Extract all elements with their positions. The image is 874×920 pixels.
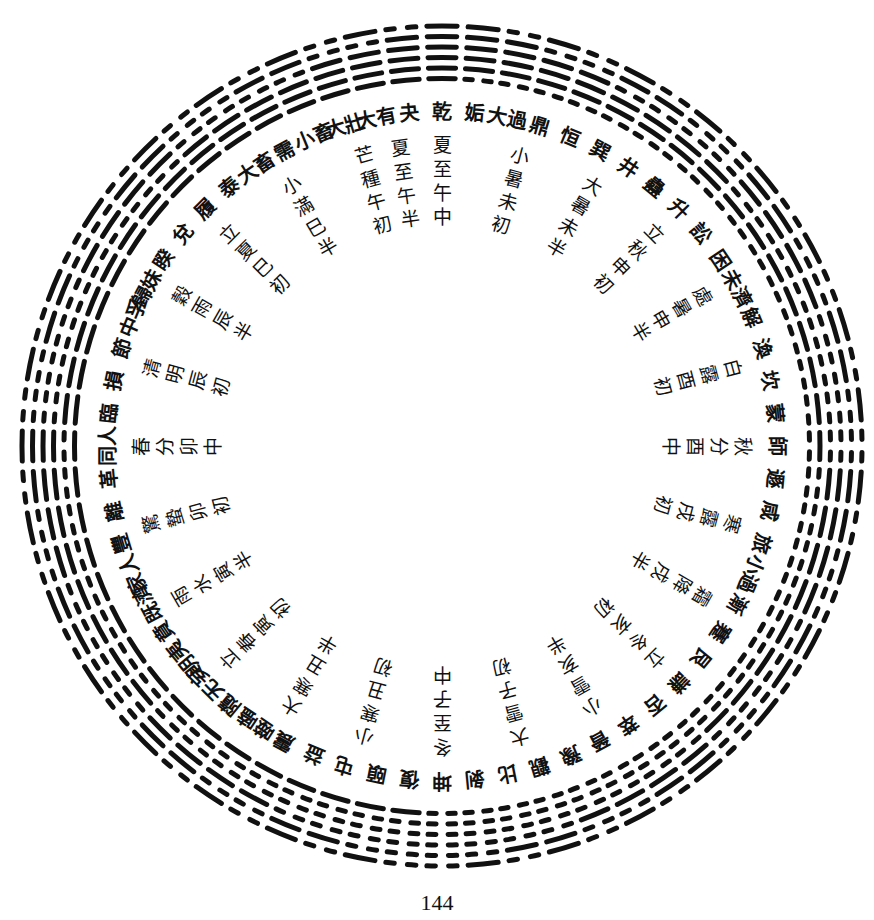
hexagram-line xyxy=(804,380,805,387)
hexagram-line xyxy=(641,800,648,804)
hexagram-line xyxy=(506,52,534,58)
solar-term-char: 戌 xyxy=(673,499,699,523)
hexagram-line xyxy=(823,295,826,303)
hexagram-label: 晉 xyxy=(585,726,614,757)
hexagram-line xyxy=(102,251,106,258)
hexagram-line xyxy=(76,604,79,611)
hexagram-line xyxy=(69,506,70,514)
hexagram-line xyxy=(66,339,68,347)
hexagram-line xyxy=(620,764,626,768)
hexagram-line xyxy=(757,219,762,225)
hexagram-line xyxy=(631,782,638,786)
solar-term-char: 芒 xyxy=(352,142,376,168)
solar-term-char: 辰 xyxy=(185,368,211,392)
hexagram-line xyxy=(663,761,669,766)
hexagram-line xyxy=(506,839,514,840)
hexagram-line xyxy=(797,621,801,628)
hexagram-line xyxy=(133,681,151,703)
hexagram-line xyxy=(778,251,782,258)
hexagram-line xyxy=(178,142,184,147)
hexagram-line xyxy=(795,345,797,352)
hexagram-line xyxy=(171,134,177,139)
hexagram-line xyxy=(530,35,538,37)
solar-term-char: 露 xyxy=(696,362,722,386)
hexagram-label: 姤 xyxy=(464,100,486,126)
hexagram-line xyxy=(52,571,55,579)
hexagram-line xyxy=(410,833,418,834)
hexagram-line xyxy=(276,809,283,812)
hexagram-line xyxy=(539,809,546,811)
hexagram-line xyxy=(806,488,807,495)
hexagram-line xyxy=(202,109,209,114)
solar-term-char: 驚 xyxy=(138,512,164,536)
hexagram-line xyxy=(795,582,806,608)
hexagram-line xyxy=(549,40,578,49)
hexagram-line xyxy=(700,142,706,147)
solar-term-char: 中 xyxy=(202,437,224,456)
hexagram-line xyxy=(316,70,343,78)
hexagram-line xyxy=(790,327,792,334)
hexagram-line xyxy=(185,737,191,742)
hexagram-line xyxy=(783,685,788,692)
hexagram-line xyxy=(800,523,802,530)
hexagram-line xyxy=(706,696,711,701)
solar-term-char: 午 xyxy=(364,189,388,215)
hexagram-line xyxy=(309,56,317,59)
hexagram-line xyxy=(133,204,138,210)
hexagram-line xyxy=(95,596,98,603)
solar-term-char: 卯 xyxy=(178,437,200,456)
hexagram-label: 家人 xyxy=(114,550,152,597)
solar-term-char: 至 xyxy=(392,160,414,184)
solar-term-char: 小 xyxy=(352,724,376,750)
hexagram-line xyxy=(345,31,375,37)
hexagram-line xyxy=(544,830,552,832)
hexagram-label: 夬 xyxy=(398,100,421,126)
hexagram-line xyxy=(465,823,473,824)
hexagram-line xyxy=(805,280,816,307)
hexagram-line xyxy=(757,701,776,724)
solar-term-ring: 夏至午中小暑未初大暑未半立秋申初處暑申半白露酉初秋分酉中寒露戌初霜降戌半立冬亥初… xyxy=(130,134,754,758)
hexagram-label: 乾 xyxy=(432,100,452,124)
hexagram-line xyxy=(804,505,805,512)
hexagram-line xyxy=(269,782,276,785)
hexagram-line xyxy=(221,753,227,757)
hexagram-line xyxy=(541,820,549,822)
hexagram-line xyxy=(800,323,808,349)
hexagram-line xyxy=(589,52,597,55)
hexagram-line xyxy=(65,631,69,639)
hexagram-line xyxy=(94,661,98,668)
hexagram-line xyxy=(808,469,809,476)
hexagram-line xyxy=(829,313,838,341)
hexagram-line xyxy=(129,639,144,661)
solar-term-char: 午 xyxy=(396,183,418,207)
hexagram-line xyxy=(68,299,71,307)
hexagram-line xyxy=(389,48,418,51)
hexagram-label: 升 xyxy=(663,194,694,225)
hexagram-label: 豐 xyxy=(107,530,136,556)
hexagram-line xyxy=(348,845,356,847)
hexagram-line xyxy=(539,81,565,89)
hexagram-line xyxy=(730,669,735,675)
solar-term-char: 寒 xyxy=(358,700,382,726)
hexagram-line xyxy=(848,471,851,500)
hexagram-line xyxy=(114,673,119,680)
hexagram-line xyxy=(749,711,754,717)
hexagram-line xyxy=(850,412,851,420)
hexagram-line xyxy=(501,808,508,809)
hexagram-line xyxy=(814,506,815,514)
hexagram-line xyxy=(605,818,613,821)
hexagram-line xyxy=(355,73,382,78)
hexagram-line xyxy=(181,112,188,117)
hexagram-line xyxy=(295,72,303,75)
hexagram-line xyxy=(122,718,128,724)
hexagram-line xyxy=(93,640,97,647)
hexagram-line xyxy=(768,235,772,242)
hexagram-line xyxy=(306,843,314,846)
hexagram-line xyxy=(122,168,128,174)
hexagram-line xyxy=(851,349,853,357)
hexagram-line xyxy=(74,259,78,266)
hexagram-line xyxy=(66,489,67,497)
hexagram-line xyxy=(76,280,79,287)
hexagram-label: 益 xyxy=(300,740,328,770)
hexagram-line xyxy=(817,395,820,422)
